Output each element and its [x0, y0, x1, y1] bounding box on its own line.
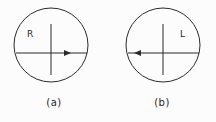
diagram-panel-a: R (a) [0, 0, 108, 122]
caption-b: (b) [108, 97, 216, 109]
axis-label-b: L [180, 29, 185, 39]
arrowhead-right-icon [64, 50, 71, 56]
arrowhead-left-icon [134, 50, 141, 56]
diagram-a-svg: R [0, 0, 108, 97]
diagram-b-svg: L [108, 0, 216, 97]
figure-root: R (a) L (b) [0, 0, 216, 122]
caption-a: (a) [0, 97, 108, 109]
axis-label-a: R [27, 29, 33, 39]
diagram-panel-b: L (b) [108, 0, 216, 122]
